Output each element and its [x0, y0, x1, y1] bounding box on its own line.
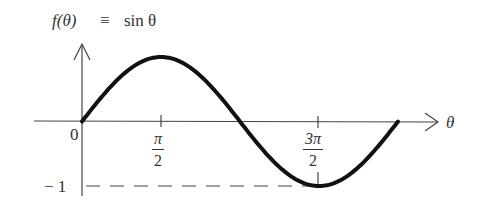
origin-label: 0	[70, 126, 79, 143]
pi-half-label: π 2	[152, 131, 164, 169]
x-axis	[34, 121, 438, 122]
theta-label: θ	[446, 114, 454, 131]
title-function: f(θ)	[52, 12, 76, 29]
three-pi-half-label: 3π 2	[303, 131, 323, 169]
title-sin: sin θ	[124, 12, 156, 29]
minus-one-label: − 1	[44, 178, 66, 195]
sine-chart	[0, 0, 482, 212]
title-equiv: ≡	[100, 12, 110, 29]
